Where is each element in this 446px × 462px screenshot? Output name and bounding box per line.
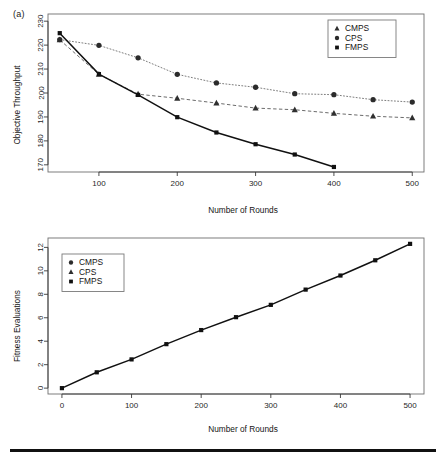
data-point-circle — [370, 97, 375, 102]
data-point-triangle — [370, 113, 376, 119]
data-point-square — [175, 115, 179, 119]
data-point-circle — [292, 91, 297, 96]
y-axis-tick-label: 190 — [37, 110, 46, 124]
legend-label-cps: CPS — [345, 33, 363, 43]
chart-panel-objective-throughput: (a) 170180190200210220230100200300400500… — [0, 0, 446, 228]
y-axis-tick-label: 10 — [37, 266, 46, 275]
data-point-square — [373, 258, 377, 262]
y-axis-tick-label: 0 — [37, 385, 46, 390]
data-point-circle — [335, 36, 339, 40]
legend-label-cmps: CMPS — [79, 257, 104, 267]
y-axis-title-bottom: Fitness Evaluations — [12, 290, 22, 362]
data-point-triangle — [213, 100, 219, 106]
data-point-circle — [69, 260, 73, 264]
figure-container: (a) 170180190200210220230100200300400500… — [0, 0, 446, 462]
x-axis-tick-label: 500 — [406, 179, 420, 188]
data-point-circle — [96, 43, 101, 48]
y-axis-tick-label: 12 — [37, 242, 46, 251]
data-point-square — [253, 142, 257, 146]
data-point-square — [214, 130, 218, 134]
data-point-square — [332, 165, 336, 169]
data-point-square — [69, 280, 73, 284]
data-point-circle — [175, 72, 180, 77]
objective-throughput-plot: 170180190200210220230100200300400500 CMP… — [0, 0, 446, 228]
data-point-square — [95, 370, 99, 374]
data-point-square — [234, 315, 238, 319]
y-axis-tick-label: 6 — [37, 315, 46, 320]
y-axis-tick-label: 4 — [37, 338, 46, 343]
data-point-square — [129, 357, 133, 361]
x-axis-title-bottom: Number of Rounds — [208, 424, 278, 434]
x-axis-tick-label: 300 — [249, 179, 263, 188]
data-point-circle — [253, 85, 258, 90]
fitness-evaluations-plot: 0246810120100200300400500 CMPSCPSFMPS Nu… — [0, 228, 446, 440]
data-point-triangle — [253, 105, 259, 111]
data-point-square — [58, 31, 62, 35]
data-point-circle — [57, 37, 62, 42]
data-point-circle — [410, 99, 415, 104]
x-axis-tick-label: 100 — [125, 401, 139, 410]
data-point-square — [136, 93, 140, 97]
y-axis-tick-label: 180 — [37, 134, 46, 148]
data-point-square — [304, 288, 308, 292]
y-axis-tick-label: 2 — [37, 362, 46, 367]
chart-panel-fitness-evaluations: 0246810120100200300400500 CMPSCPSFMPS Nu… — [0, 228, 446, 440]
data-point-square — [408, 242, 412, 246]
data-point-triangle — [174, 95, 180, 101]
x-axis-tick-label: 200 — [171, 179, 185, 188]
data-point-square — [164, 342, 168, 346]
x-axis-tick-label: 300 — [264, 401, 278, 410]
x-axis-title-top: Number of Rounds — [208, 205, 278, 215]
y-axis-tick-label: 170 — [37, 158, 46, 172]
x-axis-tick-label: 400 — [334, 401, 348, 410]
legend-label-fmps: FMPS — [79, 276, 103, 286]
legend-label-cmps: CMPS — [345, 23, 370, 33]
data-point-square — [60, 386, 64, 390]
x-axis-tick-label: 400 — [327, 179, 341, 188]
data-point-triangle — [409, 115, 415, 121]
data-point-square — [199, 328, 203, 332]
data-point-square — [97, 72, 101, 76]
y-axis-tick-label: 200 — [37, 86, 46, 100]
legend-label-fmps: FMPS — [345, 42, 369, 52]
y-axis-title-top: Objective Throughput — [12, 65, 22, 145]
x-axis-tick-label: 500 — [403, 401, 417, 410]
y-axis-tick-label: 220 — [37, 38, 46, 52]
data-point-square — [338, 273, 342, 277]
series-line-fmps — [60, 33, 334, 167]
legend-label-cps: CPS — [79, 267, 97, 277]
data-point-square — [335, 46, 339, 50]
x-axis-tick-label: 100 — [92, 179, 106, 188]
x-axis-tick-label: 200 — [195, 401, 209, 410]
data-point-circle — [135, 55, 140, 60]
data-point-circle — [331, 92, 336, 97]
y-axis-tick-label: 8 — [37, 292, 46, 297]
horizontal-rule — [10, 449, 436, 452]
x-axis-tick-label: 0 — [60, 401, 65, 410]
data-point-circle — [214, 80, 219, 85]
data-point-square — [269, 303, 273, 307]
data-point-square — [293, 152, 297, 156]
y-axis-tick-label: 230 — [37, 14, 46, 28]
y-axis-tick-label: 210 — [37, 62, 46, 76]
